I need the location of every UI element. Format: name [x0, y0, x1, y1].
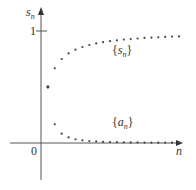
data-point — [54, 67, 56, 69]
data-point — [123, 141, 125, 143]
data-point — [47, 86, 50, 89]
data-point — [157, 142, 159, 144]
data-point — [143, 142, 145, 144]
data-point — [130, 141, 132, 143]
data-point — [81, 139, 83, 141]
data-point — [157, 36, 159, 38]
data-point — [137, 37, 139, 39]
y-tick-label: 1 — [30, 24, 36, 38]
data-point — [61, 133, 63, 135]
data-point — [109, 141, 111, 143]
data-point — [68, 52, 70, 54]
data-point — [178, 35, 180, 37]
data-point — [68, 136, 70, 138]
data-point — [164, 142, 166, 144]
data-point — [88, 44, 90, 46]
data-point — [74, 138, 76, 140]
data-point — [95, 140, 97, 142]
x-axis-label: n — [176, 144, 182, 158]
data-point — [116, 39, 118, 41]
data-point — [137, 141, 139, 143]
y-axis-arrow-icon — [38, 7, 44, 15]
data-point — [123, 39, 125, 41]
data-point — [116, 141, 118, 143]
data-point — [61, 58, 63, 60]
y-axis-label: sn — [26, 5, 35, 21]
data-point — [102, 141, 104, 143]
data-point — [109, 40, 111, 42]
series-label-a: {an} — [112, 115, 134, 131]
data-point — [95, 42, 97, 44]
series-label-s: {sn} — [112, 43, 132, 59]
data-point — [150, 37, 152, 39]
data-point — [102, 41, 104, 43]
data-point — [130, 38, 132, 40]
chart: 1 0 sn n {sn} {an} — [0, 0, 196, 190]
data-point — [88, 140, 90, 142]
data-point — [171, 142, 173, 144]
data-point — [54, 123, 56, 125]
origin-label: 0 — [31, 144, 37, 158]
data-point — [74, 49, 76, 51]
data-point — [150, 142, 152, 144]
data-point — [81, 46, 83, 48]
data-point — [143, 37, 145, 39]
data-point — [171, 36, 173, 38]
data-point — [164, 36, 166, 38]
